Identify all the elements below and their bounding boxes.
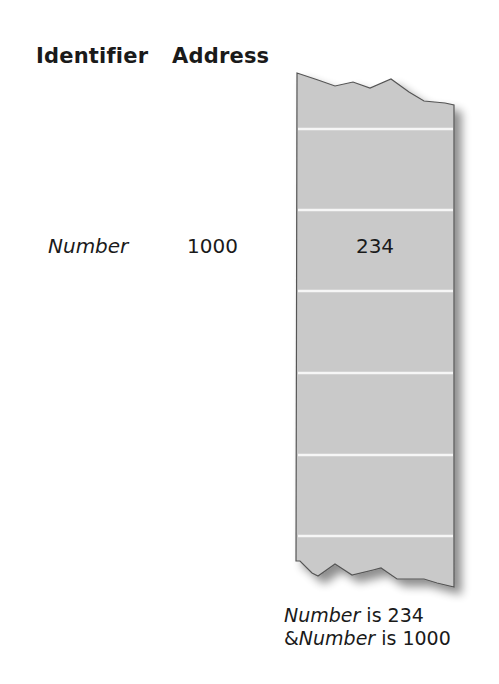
memory-strip [296, 73, 454, 587]
memory-cell-value: 234 [296, 234, 454, 258]
caption: Number is 234 &Number is 1000 [284, 604, 451, 650]
caption-line-value: Number is 234 [284, 604, 451, 627]
memory-column-diagram [0, 0, 499, 684]
caption-line-address: &Number is 1000 [284, 627, 451, 650]
variable-identifier: Number [48, 234, 128, 258]
variable-address: 1000 [187, 234, 238, 258]
